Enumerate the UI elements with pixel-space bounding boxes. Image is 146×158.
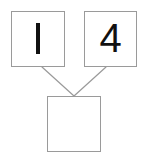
addend-value-left [36,23,40,54]
addend-box-left[interactable] [11,11,65,67]
addend-box-right[interactable]: 4 [84,11,137,67]
addend-value-right: 4 [99,18,121,58]
number-bond-diagram: 4 [0,0,146,158]
connector-line-right [74,67,106,96]
connector-line-left [42,67,74,96]
sum-answer-box[interactable] [47,96,101,152]
